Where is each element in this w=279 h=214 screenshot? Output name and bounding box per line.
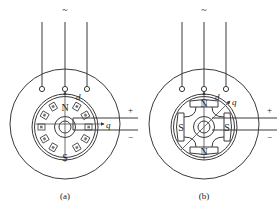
terminal-icon xyxy=(39,86,44,91)
q-axis-label-a: q xyxy=(106,120,111,130)
figure-a: ~ xyxy=(10,4,138,201)
dc-plus-label-a: + xyxy=(128,105,133,115)
d-axis-label-b: d xyxy=(215,92,220,102)
ac-supply-symbol-a: ~ xyxy=(62,4,68,15)
d-axis-label-a: d xyxy=(76,92,81,102)
ac-supply-symbol-b: ~ xyxy=(201,4,207,15)
dc-field-leads-b xyxy=(212,118,277,130)
dc-minus-label-b: − xyxy=(267,132,272,142)
caption-b: (b) xyxy=(199,191,210,201)
pole-label-top-a: N xyxy=(61,102,68,113)
terminal-icon xyxy=(201,86,206,91)
dc-plus-label-b: + xyxy=(267,105,272,115)
pole-label-left-b: S xyxy=(178,122,184,133)
pole-label-top-b: N xyxy=(200,98,207,109)
pole-label-bottom-a: S xyxy=(62,152,68,163)
terminal-icon xyxy=(179,86,184,91)
pole-label-bottom-b: N xyxy=(200,146,207,157)
caption-a: (a) xyxy=(60,191,70,201)
terminal-icon xyxy=(84,86,89,91)
three-phase-leads-b xyxy=(179,22,228,92)
q-axis-label-b: q xyxy=(232,97,237,107)
figure-b: ~ xyxy=(149,4,277,201)
terminal-icon xyxy=(62,86,67,91)
terminal-icon xyxy=(223,86,228,91)
synchronous-machine-diagrams: ~ xyxy=(0,0,279,214)
dc-minus-label-a: − xyxy=(128,132,133,142)
three-phase-leads-a xyxy=(39,22,89,92)
pole-label-right-b: S xyxy=(224,122,230,133)
